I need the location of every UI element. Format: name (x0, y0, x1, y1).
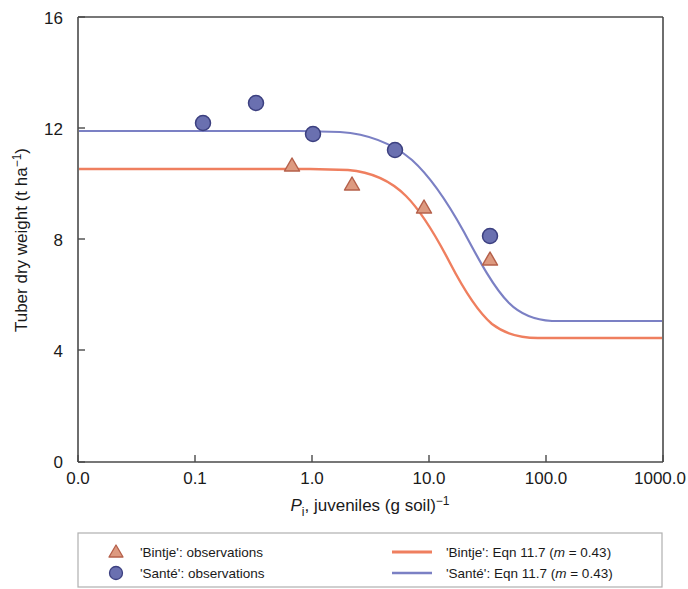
svg-text:Tuber dry weight (t ha−1): Tuber dry weight (t ha−1) (10, 148, 31, 332)
y-tick-12: 12 (44, 120, 63, 139)
x-tick-0: 0.0 (66, 469, 90, 488)
legend-label-bintje-eqn-suffix: = 0.43) (565, 545, 611, 560)
data-point-sante (249, 96, 264, 111)
data-point-bintje (345, 177, 360, 190)
y-title-superscript: −1 (10, 153, 24, 167)
y-tick-4: 4 (54, 342, 63, 361)
svg-text:'Bintje': Eqn 11.7 (m = 0.43): 'Bintje': Eqn 11.7 (m = 0.43) (446, 545, 611, 560)
svg-text:Pi, juveniles (g soil)−1: Pi, juveniles (g soil)−1 (290, 494, 449, 519)
x-axis-tick-labels: 0.0 0.1 1.0 10.0 100.0 1000.0 (66, 469, 686, 488)
data-point-sante (388, 143, 403, 158)
y-tick-0: 0 (54, 453, 63, 472)
x-axis-ticks (78, 455, 663, 462)
x-tick-0.1: 0.1 (183, 469, 207, 488)
data-point-bintje (417, 200, 432, 213)
bintje-observation-markers (285, 158, 498, 265)
y-title-main: Tuber dry weight (t ha (12, 167, 31, 332)
bintje-model-curve (79, 169, 663, 338)
x-axis-title: Pi, juveniles (g soil)−1 (290, 494, 449, 519)
x-tick-100: 100.0 (525, 469, 568, 488)
y-axis-tick-labels: 16 12 8 4 0 (44, 9, 63, 472)
chart-figure: 16 12 8 4 0 Tuber dry weight (t ha−1) (0, 0, 688, 589)
sante-model-curve (79, 131, 663, 321)
x-tick-1000: 1000.0 (634, 469, 686, 488)
chart-curves (79, 131, 663, 338)
y-axis-ticks (78, 17, 85, 462)
plot-axes-frame (78, 17, 663, 462)
legend-label-bintje-eqn-m: m (554, 545, 565, 560)
chart-svg: 16 12 8 4 0 Tuber dry weight (t ha−1) (0, 0, 688, 589)
legend-label-sante-eqn-m: m (555, 566, 566, 581)
y-title-end: ) (12, 148, 31, 154)
svg-text:'Santé': Eqn 11.7 (m = 0.43): 'Santé': Eqn 11.7 (m = 0.43) (446, 566, 613, 581)
chart-legend: 'Bintje': observations 'Santé': observat… (78, 533, 662, 587)
legend-marker-sante-circle (110, 567, 123, 580)
x-title-superscript: −1 (436, 494, 450, 508)
x-tick-1: 1.0 (300, 469, 324, 488)
x-title-p: P (290, 496, 302, 515)
data-point-bintje (285, 158, 300, 171)
x-title-mid: , juveniles (g soil) (305, 496, 436, 515)
legend-label-bintje-eqn-prefix: 'Bintje': Eqn 11.7 ( (446, 545, 554, 560)
legend-label-bintje-observations: 'Bintje': observations (140, 545, 263, 560)
data-point-sante (306, 127, 321, 142)
legend-label-sante-eqn-suffix: = 0.43) (566, 566, 612, 581)
x-tick-10: 10.0 (412, 469, 445, 488)
data-point-bintje (483, 252, 498, 265)
y-axis-title: Tuber dry weight (t ha−1) (10, 148, 31, 332)
legend-label-sante-eqn-prefix: 'Santé': Eqn 11.7 ( (446, 566, 556, 581)
y-tick-8: 8 (54, 231, 63, 250)
data-point-sante (196, 116, 211, 131)
data-point-sante (483, 229, 498, 244)
y-tick-16: 16 (44, 9, 63, 28)
legend-label-sante-observations: 'Santé': observations (140, 566, 265, 581)
